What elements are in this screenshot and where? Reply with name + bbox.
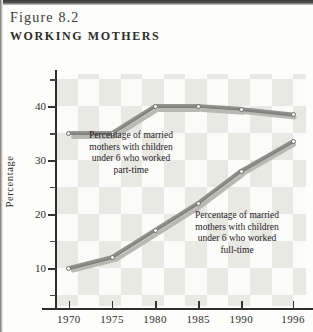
y-axis-minor-tick: [50, 79, 56, 80]
y-axis-tick-label: 40: [16, 101, 46, 111]
y-axis-minor-tick: [50, 187, 56, 188]
checker-cell: [293, 268, 306, 295]
checker-cell: [207, 74, 229, 79]
annotation-line: part-time: [60, 165, 202, 177]
y-axis-tick: [48, 160, 56, 161]
annotation-part-time: Percentage of marriedmothers with childr…: [60, 130, 202, 176]
series-part-time-data-point: [196, 104, 201, 109]
annotation-line: under 6 who worked: [168, 233, 306, 245]
checker-cell: [164, 74, 186, 79]
checker-cell: [78, 214, 100, 241]
checker-cell: [78, 268, 100, 295]
checker-cell: [293, 160, 306, 187]
y-axis-tick: [48, 268, 56, 269]
annotation-full-time: Percentage of marriedmothers with childr…: [168, 210, 306, 256]
checker-cell: [228, 79, 250, 106]
series-full-time-data-point: [291, 139, 296, 144]
checker-cell: [142, 187, 164, 214]
scan-top-edge: [0, 0, 313, 5]
series-part-time-data-point: [153, 104, 158, 109]
x-axis-tick: [293, 301, 294, 309]
annotation-line: full-time: [168, 245, 306, 257]
checker-cell: [272, 79, 294, 106]
checker-cell: [164, 268, 186, 295]
annotation-line: mothers with children: [60, 142, 202, 154]
y-axis-minor-tick: [50, 295, 56, 296]
x-axis-line: [42, 308, 313, 310]
y-axis-tick-label: 20: [16, 209, 46, 219]
x-axis-tick-label: 1996: [271, 313, 313, 325]
checker-cell: [250, 74, 272, 79]
series-full-time-data-point: [239, 169, 244, 174]
series-part-time-data-point: [239, 107, 244, 112]
y-axis-tick: [48, 106, 56, 107]
x-axis-tick-label: 1985: [176, 313, 220, 325]
checker-cell: [293, 106, 306, 133]
checker-cell: [56, 187, 78, 214]
checker-cell: [56, 79, 78, 106]
checker-cell: [142, 295, 164, 306]
plot-area: [56, 74, 306, 306]
y-axis-minor-tick: [50, 133, 56, 134]
annotation-line: under 6 who worked: [60, 153, 202, 165]
checker-cell: [250, 268, 272, 295]
figure-panel: Figure 8.2 WORKING MOTHERS 10203040 1970…: [0, 0, 313, 332]
annotation-line: Percentage of married: [168, 210, 306, 222]
x-axis-tick: [155, 301, 156, 309]
figure-number: Figure 8.2: [10, 10, 290, 26]
series-full-time-data-point: [196, 201, 201, 206]
checker-cell: [228, 133, 250, 160]
checker-cell: [272, 295, 294, 306]
annotation-line: mothers with children: [168, 222, 306, 234]
annotation-line: Percentage of married: [60, 130, 202, 142]
checker-cell: [56, 295, 78, 306]
series-part-time-data-point: [291, 112, 296, 117]
chart: 10203040 197019751980198519901996 Percen…: [0, 58, 313, 332]
x-axis-tick-label: 1990: [219, 313, 263, 325]
series-full-time-data-point: [110, 255, 115, 260]
series-full-time-data-point: [153, 228, 158, 233]
x-axis-tick: [69, 301, 70, 309]
y-axis-title: Percentage: [4, 155, 15, 207]
checker-cell: [228, 295, 250, 306]
checker-cell: [293, 74, 306, 79]
series-part-time-segment: [155, 104, 200, 108]
x-axis-tick-label: 1970: [47, 313, 91, 325]
checker-cell: [121, 74, 143, 79]
checker-cell: [121, 268, 143, 295]
checker-cell: [185, 295, 207, 306]
checker-cell: [185, 79, 207, 106]
figure-title: WORKING MOTHERS: [10, 28, 290, 44]
checker-cell: [99, 187, 121, 214]
checker-cell: [142, 79, 164, 106]
x-axis-tick: [198, 301, 199, 309]
y-axis-tick-label: 30: [16, 155, 46, 165]
x-axis-tick: [241, 301, 242, 309]
figure-header: Figure 8.2 WORKING MOTHERS: [10, 10, 290, 44]
checker-cell: [207, 268, 229, 295]
checker-cell: [99, 295, 121, 306]
x-axis-tick-label: 1980: [133, 313, 177, 325]
y-axis-minor-tick: [50, 241, 56, 242]
x-axis-tick-label: 1975: [90, 313, 134, 325]
checker-cell: [99, 79, 121, 106]
checker-cell: [78, 74, 100, 79]
y-axis-tick: [48, 214, 56, 215]
y-axis-tick-label: 10: [16, 263, 46, 273]
checker-cell: [142, 241, 164, 268]
x-axis-tick: [112, 301, 113, 309]
